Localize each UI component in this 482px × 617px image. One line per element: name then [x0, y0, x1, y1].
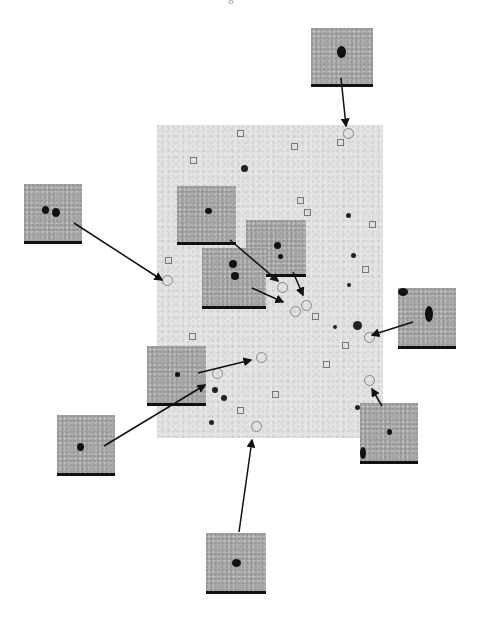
pointer-arrows	[0, 0, 482, 617]
